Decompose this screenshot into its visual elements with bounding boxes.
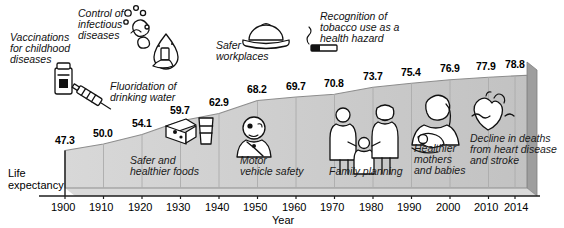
value-label-1980: 73.7	[363, 70, 383, 82]
x-tick-1930: 1930	[166, 201, 190, 213]
x-tick-1970: 1970	[320, 201, 344, 213]
x-tick-1960: 1960	[282, 201, 306, 213]
annotation-vaccinations-line3: diseases	[10, 54, 51, 66]
water-drop-icon	[153, 34, 178, 69]
hard-hat-icon	[243, 24, 289, 49]
x-tick-2000: 2000	[436, 201, 460, 213]
value-label-1930: 59.7	[170, 104, 190, 116]
value-label-1940: 62.9	[209, 96, 229, 108]
annotation-family-line1: Family planning	[329, 166, 403, 178]
x-tick-1910: 1910	[89, 201, 113, 213]
germ-icon	[124, 6, 150, 49]
vaccine-vial-syringe-icon	[55, 63, 113, 112]
x-tick-1950: 1950	[243, 201, 267, 213]
annotation-foods-line2: healthier foods	[130, 166, 199, 178]
value-label-2010: 77.9	[476, 60, 496, 72]
y-axis-title-line1: Life	[8, 167, 26, 179]
x-tick-1940: 1940	[205, 201, 229, 213]
value-label-1970: 70.8	[324, 77, 344, 89]
value-label-1910: 50.0	[93, 127, 113, 139]
x-tick-2010: 2010	[474, 201, 498, 213]
value-label-1920: 54.1	[132, 117, 152, 129]
x-tick-1990: 1990	[397, 201, 421, 213]
seatbelt-person-icon	[237, 117, 271, 157]
annotation-workplaces-line2: workplaces	[216, 51, 269, 63]
value-label-1900: 47.3	[55, 134, 75, 146]
annotation-fluoridation-line2: drinking water	[110, 92, 175, 104]
x-tick-1900: 1900	[51, 201, 75, 213]
annotation-heart-line3: and stroke	[470, 155, 519, 167]
annotation-infectious-line3: diseases	[78, 30, 119, 42]
x-axis-title: Year	[272, 214, 294, 226]
life-expectancy-area-chart: 47.3 50.0 54.1 59.7 62.9 68.2 69.7 70.8 …	[0, 0, 564, 228]
cheese-milk-icon	[166, 118, 213, 144]
value-label-1950: 68.2	[247, 83, 267, 95]
x-tick-1920: 1920	[128, 201, 152, 213]
heart-icon	[472, 92, 514, 130]
y-axis-title-line2: expectancy	[8, 179, 64, 191]
value-label-1960: 69.7	[286, 80, 306, 92]
x-tick-1980: 1980	[359, 201, 383, 213]
annotation-motor-line2: vehicle safety	[240, 166, 304, 178]
annotation-tobacco-line3: health hazard	[320, 33, 384, 45]
x-tick-2014: 2014	[504, 201, 528, 213]
value-label-2000: 76.9	[440, 62, 460, 74]
family-icon	[330, 105, 398, 174]
value-label-1990: 75.4	[401, 66, 421, 78]
annotation-mothers-line3: and babies	[414, 165, 465, 177]
value-label-2014: 78.8	[505, 58, 525, 70]
